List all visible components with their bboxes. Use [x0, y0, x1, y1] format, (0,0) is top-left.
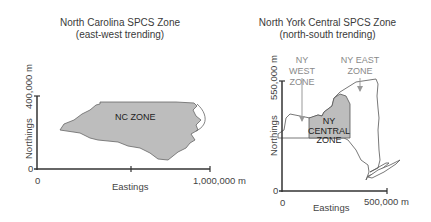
ny-central-zone-label: NY CENTRAL ZONE: [304, 117, 354, 146]
left-title: North Carolina SPCS Zone: [40, 17, 200, 29]
right-y-tick-label: 550,000 m: [268, 55, 279, 100]
left-x-zero-label: 0: [35, 175, 40, 186]
left-x-right-label: 1,000,000 m: [193, 175, 246, 186]
ny-east-zone-label: NY EAST ZONE: [340, 55, 380, 77]
nc-zone-label: NC ZONE: [115, 113, 156, 123]
right-x-right-label: 500,000 m: [364, 196, 409, 207]
nc-zone-shape: [60, 102, 201, 160]
left-subtitle: (east-west trending): [40, 29, 200, 41]
right-panel-title: North York Central SPCS Zone (north-sout…: [245, 17, 410, 41]
left-y-zero-label: 0: [28, 163, 33, 174]
right-y-axis-label: Northings: [268, 115, 279, 156]
right-title: North York Central SPCS Zone: [245, 17, 410, 29]
right-x-axis-label: Eastings: [313, 202, 349, 213]
left-panel-title: North Carolina SPCS Zone (east-west tren…: [40, 17, 200, 41]
left-y-axis-label: Northings: [23, 118, 34, 159]
left-x-axis-label: Eastings: [112, 181, 148, 192]
right-y-zero-label: 0: [273, 185, 278, 196]
ny-west-zone-label: NY WEST ZONE: [282, 55, 322, 88]
left-y-tick-label: 400,000 m: [23, 64, 34, 109]
right-subtitle: (north-south trending): [245, 29, 410, 41]
right-x-zero-label: 0: [280, 197, 285, 208]
